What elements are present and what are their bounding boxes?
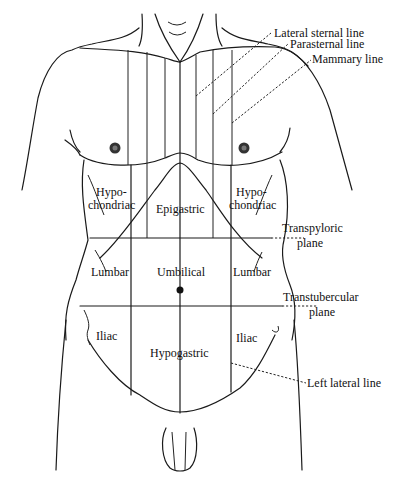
abdominal-regions-diagram: Lateral sternal line Parasternal line Ma…	[0, 0, 398, 482]
throat-line-1	[168, 22, 186, 25]
label-right-iliac: Iliac	[96, 329, 117, 343]
neck-right-outline	[216, 14, 222, 46]
right-axilla	[280, 128, 290, 152]
umbilicus	[177, 287, 184, 294]
label-hypogastric: Hypogastric	[150, 346, 209, 360]
right-iliac-crest	[84, 310, 90, 345]
parasternal-pointer	[213, 44, 288, 114]
label-transpyloric-plane: plane	[297, 236, 323, 250]
throat-line-2	[169, 32, 186, 35]
mammary-pointer	[232, 60, 311, 123]
torso-left-side	[65, 160, 88, 340]
left-iliac-crest	[272, 326, 279, 332]
label-parasternal-line: Parasternal line	[290, 37, 364, 51]
label-right-lumbar: Lumbar	[91, 265, 129, 279]
genital-outline	[163, 428, 197, 471]
left-axilla-2	[65, 140, 80, 155]
neck-left-outline	[139, 14, 142, 46]
left-hip-outline	[56, 320, 66, 470]
label-left-lateral-line: Left lateral line	[307, 376, 381, 390]
label-right-hypochondriac-1: Hypo-	[96, 185, 127, 199]
label-epigastric: Epigastric	[156, 202, 205, 216]
label-umbilical: Umbilical	[157, 265, 206, 279]
label-right-hypochondriac-2: chondriac	[88, 198, 135, 212]
label-left-hypochondriac-1: Hypo-	[236, 185, 267, 199]
label-transtubercular: Transtubercular	[283, 290, 359, 304]
neck-right-muscle	[180, 14, 203, 62]
label-mammary-line: Mammary line	[312, 52, 383, 66]
torso-right-side	[280, 160, 295, 340]
label-left-lumbar: Lumbar	[233, 265, 271, 279]
neck-left-muscle	[155, 14, 180, 62]
right-hip-outline	[294, 320, 302, 470]
label-transtubercular-plane: plane	[309, 305, 335, 319]
left-lateral-pointer	[231, 363, 306, 383]
label-left-iliac: Iliac	[236, 331, 257, 345]
torso-illustration: Lateral sternal line Parasternal line Ma…	[0, 0, 398, 482]
label-left-hypochondriac-2: chondriac	[229, 198, 276, 212]
upper-chest-outline	[80, 47, 308, 66]
label-transpyloric: Transpyloric	[282, 221, 343, 235]
